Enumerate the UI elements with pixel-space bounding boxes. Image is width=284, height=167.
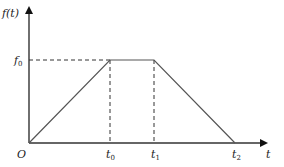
trapezoid-curve [29,60,235,143]
trapezoid-diagram: f(t) f0 O t0 t1 t2 t [0,0,284,167]
t0-label: t0 [106,148,115,162]
f0-label: f0 [13,54,23,68]
t2-label: t2 [232,148,241,162]
t1-label: t1 [151,148,160,162]
x-axis-label: t [266,148,271,161]
origin-label: O [17,148,26,161]
y-axis-label: f(t) [1,7,19,20]
